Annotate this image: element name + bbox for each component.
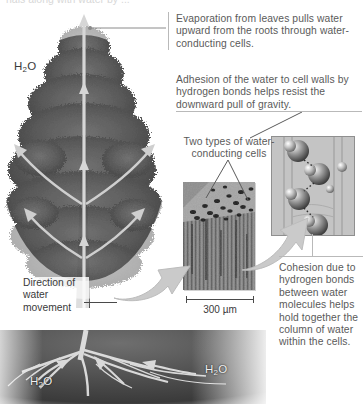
scale-bar: 300 µm [186, 296, 254, 315]
evaporation-note-rule [168, 12, 169, 50]
water-transport-figure: rials along with water by ... [0, 0, 363, 404]
h2o-label-root-left: H2O [30, 375, 52, 389]
cohesion-note-rule [279, 256, 363, 257]
scale-bar-label: 300 µm [186, 304, 254, 315]
two-types-leader-lines [176, 160, 286, 204]
note-direction-of-water-movement: Direction of water movement [23, 277, 89, 314]
cohesion-connector-line [312, 234, 313, 256]
transition-arrow-tree-to-micrograph [112, 252, 196, 304]
note-evaporation: Evaporation from leaves pulls water upwa… [176, 13, 362, 50]
note-two-types-of-cells: Two types of water-conducting cells [176, 136, 282, 161]
cropped-caption-remnant: rials along with water by ... [6, 0, 196, 5]
h2o-label-root-right: H2O [205, 363, 227, 377]
direction-leader-line [84, 302, 117, 303]
note-adhesion: Adhesion of the water to cell walls by h… [176, 74, 362, 111]
h2o-label-canopy: H2O [14, 60, 36, 74]
note-cohesion: Cohesion due to hydrogen bonds between w… [279, 262, 363, 349]
